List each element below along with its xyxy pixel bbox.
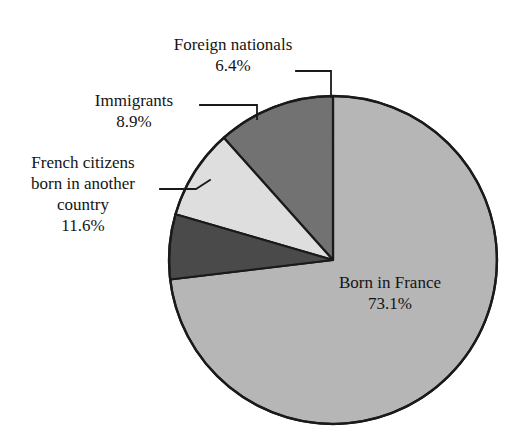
label-french-citizens-value: 11.6% bbox=[8, 215, 158, 236]
label-immigrants-title: Immigrants bbox=[70, 90, 198, 111]
label-foreign-nationals-value: 6.4% bbox=[168, 55, 298, 76]
label-french-citizens-line3: country bbox=[8, 194, 158, 215]
label-immigrants-value: 8.9% bbox=[70, 111, 198, 132]
label-foreign-nationals: Foreign nationals 6.4% bbox=[168, 34, 298, 76]
label-french-citizens: French citizens born in another country … bbox=[8, 152, 158, 236]
label-foreign-nationals-title: Foreign nationals bbox=[168, 34, 298, 55]
label-born-in-france: Born in France 73.1% bbox=[315, 272, 465, 314]
leader-line-foreign-nationals bbox=[296, 71, 331, 97]
leader-line-immigrants bbox=[200, 105, 257, 119]
label-born-in-france-value: 73.1% bbox=[315, 293, 465, 314]
pie-chart-figure: Foreign nationals 6.4% Immigrants 8.9% F… bbox=[0, 0, 508, 437]
label-french-citizens-line1: French citizens bbox=[8, 152, 158, 173]
label-immigrants: Immigrants 8.9% bbox=[70, 90, 198, 132]
label-born-in-france-title: Born in France bbox=[315, 272, 465, 293]
label-french-citizens-line2: born in another bbox=[8, 173, 158, 194]
